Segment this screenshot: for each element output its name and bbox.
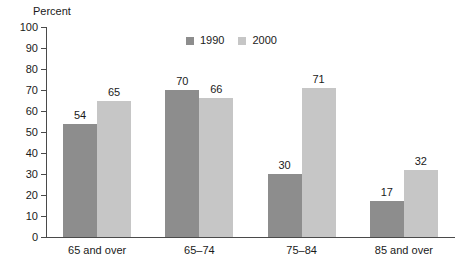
bar-2000-4 <box>404 170 438 237</box>
bar-group: 5465 <box>63 27 131 237</box>
bar-2000-2 <box>199 98 233 237</box>
bar-group: 1732 <box>370 27 438 237</box>
bar-1990-1 <box>63 124 97 237</box>
x-axis-line <box>46 237 455 238</box>
plot-area: 5465706630711732 <box>46 27 455 237</box>
bar-1990-3 <box>268 174 302 237</box>
y-axis-title: Percent <box>33 5 71 18</box>
bar-value-label: 66 <box>199 84 233 95</box>
bar-value-label: 71 <box>302 74 336 85</box>
bar-value-label: 70 <box>165 76 199 87</box>
bar-2000-1 <box>97 101 131 238</box>
bar-value-label: 32 <box>404 156 438 167</box>
bar-1990-2 <box>165 90 199 237</box>
chart-legend: 19902000 <box>186 35 277 46</box>
bar-value-label: 65 <box>97 87 131 98</box>
legend-item-1990: 1990 <box>186 35 224 46</box>
y-axis-tick-label: 60 <box>0 106 38 117</box>
bar-value-label: 54 <box>63 110 97 121</box>
y-axis-tick-label: 0 <box>0 232 38 243</box>
legend-item-2000: 2000 <box>238 35 276 46</box>
y-axis-tick-label: 100 <box>0 22 38 33</box>
bar-group: 3071 <box>268 27 336 237</box>
y-axis-tick <box>41 237 46 238</box>
y-axis-tick-label: 50 <box>0 127 38 138</box>
y-axis-tick-label: 10 <box>0 211 38 222</box>
y-axis-tick-label: 90 <box>0 43 38 54</box>
legend-swatch-icon <box>238 37 246 45</box>
bar-1990-4 <box>370 201 404 237</box>
bar-chart: Percent 1009080706050403020100 546570663… <box>0 0 469 267</box>
bar-2000-3 <box>302 88 336 237</box>
legend-label: 1990 <box>200 35 224 46</box>
legend-swatch-icon <box>186 37 194 45</box>
legend-label: 2000 <box>252 35 276 46</box>
y-axis-tick-label: 70 <box>0 85 38 96</box>
bar-value-label: 30 <box>268 160 302 171</box>
y-axis-tick-label: 40 <box>0 148 38 159</box>
bar-group: 7066 <box>165 27 233 237</box>
y-axis-tick-label: 80 <box>0 64 38 75</box>
bar-value-label: 17 <box>370 187 404 198</box>
y-axis-tick-label: 20 <box>0 190 38 201</box>
y-axis-tick-label: 30 <box>0 169 38 180</box>
x-axis-label-4: 85 and over <box>344 244 464 257</box>
